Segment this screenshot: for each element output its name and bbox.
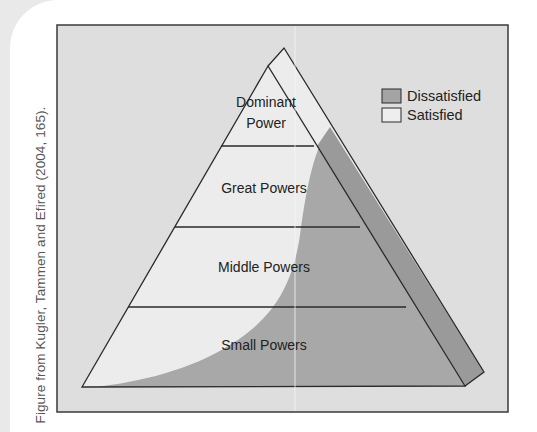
legend-swatch-dissatisfied — [382, 89, 401, 103]
tier-label-middle: Middle Powers — [218, 259, 310, 275]
legend-label-dissatisfied: Dissatisfied — [407, 88, 481, 104]
legend-swatch-satisfied — [382, 108, 401, 122]
tier-label-small: Small Powers — [221, 337, 307, 353]
pyramid-figure: Dominant Power Great Powers Middle Power… — [0, 0, 537, 432]
tier-label-dominant-line1: Dominant — [236, 94, 296, 110]
tier-label-dominant-line2: Power — [246, 115, 286, 131]
tier-label-great: Great Powers — [221, 180, 307, 196]
legend-label-satisfied: Satisfied — [407, 107, 463, 123]
